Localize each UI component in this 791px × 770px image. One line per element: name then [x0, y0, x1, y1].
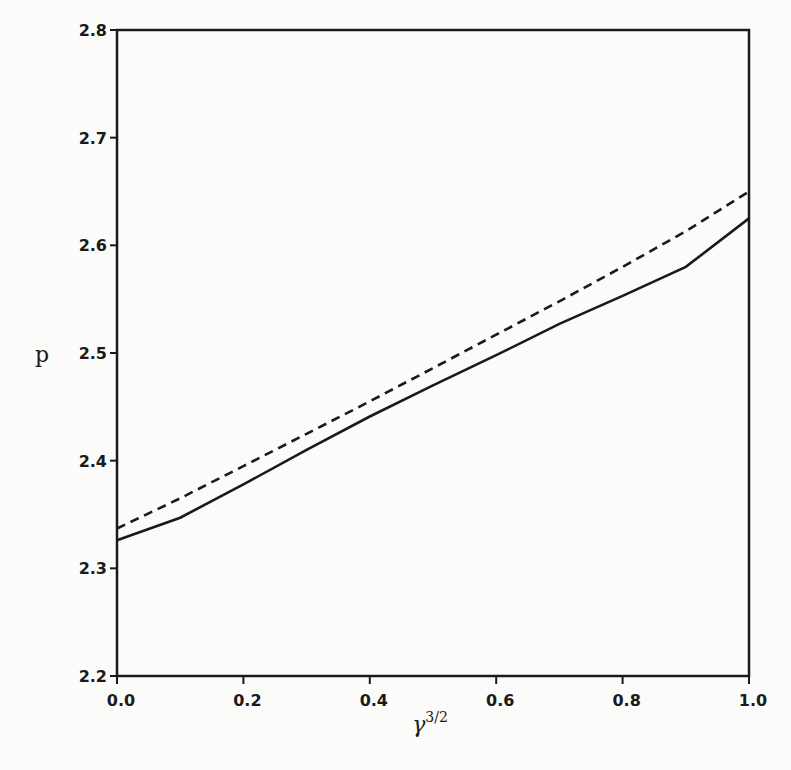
- y-tick-label: 2.3: [79, 559, 107, 578]
- plot-frame: [117, 30, 749, 676]
- y-tick-label: 2.6: [79, 236, 107, 255]
- y-tick-label: 2.5: [79, 344, 107, 363]
- y-tick-label: 2.8: [79, 21, 107, 40]
- y-axis: 2.22.32.42.52.62.72.8: [79, 21, 117, 686]
- x-axis-title-base: γ: [412, 712, 426, 737]
- plot-border: [117, 30, 749, 676]
- x-tick-label: 0.6: [486, 691, 514, 710]
- x-tick-label: 1.0: [739, 691, 767, 710]
- series-layer: [117, 192, 749, 541]
- x-tick-label: 0.4: [360, 691, 388, 710]
- line-chart: 2.22.32.42.52.62.72.8 0.00.20.40.60.81.0…: [0, 0, 791, 770]
- x-axis-title: γ3/2: [412, 709, 448, 737]
- y-tick-label: 2.4: [79, 452, 107, 471]
- series-dashed-line: [117, 192, 749, 529]
- y-tick-label: 2.7: [79, 129, 107, 148]
- series-solid-line: [117, 218, 749, 540]
- x-tick-label: 0.0: [107, 691, 135, 710]
- x-axis-title-superscript: 3/2: [425, 709, 448, 725]
- x-axis: 0.00.20.40.60.81.0: [107, 676, 767, 710]
- x-tick-label: 0.2: [233, 691, 261, 710]
- y-tick-label: 2.2: [79, 667, 107, 686]
- x-tick-label: 0.8: [612, 691, 640, 710]
- y-axis-title: p: [35, 342, 49, 367]
